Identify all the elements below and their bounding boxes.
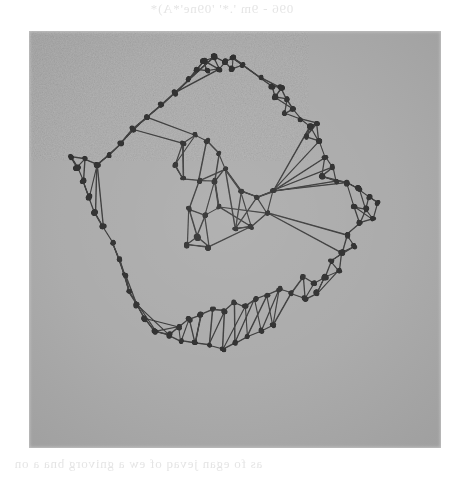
graph-node: [355, 185, 362, 192]
graph-node: [370, 216, 376, 221]
graph-node: [259, 328, 265, 334]
graph-node: [270, 322, 276, 328]
graph-edge: [103, 227, 113, 242]
graph-edge: [189, 181, 199, 208]
graph-node: [197, 178, 202, 184]
graph-node: [126, 289, 132, 294]
graph-edge: [189, 209, 197, 237]
graph-edge: [347, 183, 354, 207]
graph-node: [194, 234, 201, 241]
graph-edge: [225, 169, 235, 228]
graph-node: [107, 152, 112, 158]
graph-edge: [129, 291, 156, 330]
graph-node: [304, 133, 309, 139]
graph-node: [231, 300, 237, 306]
graph-node: [314, 121, 320, 126]
graph-edge: [196, 315, 201, 343]
graph-node: [192, 340, 198, 345]
graph-edge: [255, 299, 262, 331]
graph-edge: [199, 169, 225, 181]
graph-node: [205, 68, 210, 74]
graph-node: [321, 274, 328, 281]
graph-edge: [247, 295, 267, 337]
graph-edge: [243, 65, 261, 78]
graph-node: [100, 223, 107, 229]
graph-node: [80, 177, 87, 184]
graph-node: [86, 193, 93, 200]
graph-edge: [175, 135, 195, 165]
graph-node: [207, 343, 211, 348]
graph-node: [202, 212, 208, 218]
graph-edge: [267, 295, 273, 326]
graph-edge: [273, 127, 309, 191]
graph-edge: [245, 306, 247, 336]
graph-node: [186, 316, 193, 323]
graph-node: [264, 293, 270, 298]
graph-node: [223, 166, 228, 171]
graph-edge: [134, 130, 184, 144]
graph-node: [172, 162, 178, 168]
graph-node: [316, 138, 322, 144]
graph-node: [91, 209, 98, 216]
graph-edge: [209, 227, 251, 247]
graph-node: [270, 188, 276, 193]
graph-node: [210, 306, 216, 311]
graph-edge: [267, 213, 347, 235]
graph-node: [73, 164, 81, 171]
graph-edge: [205, 215, 210, 247]
graph-node: [253, 296, 258, 302]
bleed-through-text-top: 096 - 9m '.*' '09ne'*A)*: [150, 1, 293, 17]
graph-edge: [205, 181, 214, 215]
graph-node: [68, 154, 74, 160]
graph-node: [242, 303, 249, 308]
graph-node: [186, 206, 192, 212]
graph-edge: [187, 209, 188, 245]
graph-node: [232, 226, 238, 231]
graph-node: [176, 324, 182, 330]
graph-edge: [223, 311, 225, 349]
graph-edge: [272, 181, 335, 191]
graph-edge: [267, 213, 342, 253]
graph-node: [363, 206, 369, 213]
graph-edge: [199, 141, 207, 180]
graph-node: [351, 204, 358, 210]
graph-node: [200, 58, 208, 65]
graph-node: [334, 179, 339, 184]
graph-node: [276, 286, 282, 293]
graph-node: [179, 338, 184, 344]
graph-node: [344, 180, 349, 187]
graph-node: [278, 84, 285, 91]
graph-edge: [251, 213, 267, 227]
graph-node: [152, 328, 159, 334]
graph-edge: [241, 191, 252, 227]
graph-edge-layer: [71, 57, 379, 350]
graph-node: [216, 67, 222, 73]
figure-panel: [29, 31, 441, 448]
graph-node: [357, 220, 363, 226]
graph-node: [300, 274, 306, 280]
graph-edge: [318, 271, 339, 294]
graph-node: [259, 75, 264, 81]
graph-node: [282, 110, 287, 116]
graph-node: [122, 272, 128, 278]
graph-node-layer: [68, 53, 380, 352]
graph-edge: [161, 93, 174, 105]
graph-edge: [147, 117, 194, 135]
graph-node: [229, 66, 235, 73]
graph-node: [186, 76, 191, 82]
graph-drawing: [29, 31, 441, 448]
graph-node: [197, 312, 203, 318]
graph-node: [232, 340, 238, 346]
graph-node: [328, 258, 334, 264]
graph-edge: [215, 181, 219, 207]
bleed-through-text-bottom: as fo egan jevaq of ew a gnivorg bna a o…: [14, 456, 262, 472]
graph-node: [345, 232, 350, 238]
graph-node: [254, 195, 259, 200]
graph-edge: [207, 141, 219, 153]
graph-node: [245, 334, 250, 339]
graph-node: [302, 295, 309, 301]
graph-edge: [219, 207, 266, 213]
